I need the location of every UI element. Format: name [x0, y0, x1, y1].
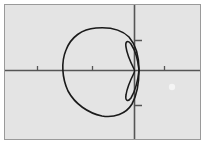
- plot-background-shade: [5, 5, 200, 139]
- figure-container: limacon-with-inner-loop: [0, 0, 205, 145]
- annotation-dot: [169, 84, 175, 90]
- limacon-plot: [0, 0, 205, 145]
